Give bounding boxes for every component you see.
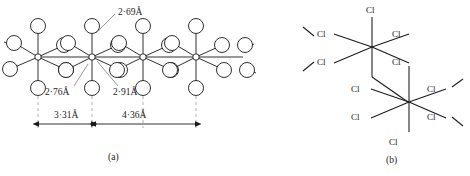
atom-label-cl-lower-lower-right: Cl bbox=[427, 113, 436, 122]
atom-label-cl-lower-bottom: Cl bbox=[389, 138, 398, 147]
ligand-circle bbox=[217, 63, 232, 78]
lower-octahedron-bonds bbox=[371, 79, 463, 132]
ligand-circle bbox=[189, 81, 204, 96]
atom-label-cl-upper-upper-right: Cl bbox=[392, 30, 401, 39]
ligand-circle bbox=[136, 81, 151, 96]
atom-label-cl-upper-upper-left: Cl bbox=[317, 30, 326, 39]
panel-b-schematic bbox=[303, 17, 463, 132]
ligand-circle bbox=[7, 36, 22, 51]
shared-edge-bonds bbox=[372, 66, 409, 102]
ligand-circle bbox=[163, 63, 178, 78]
ligand-circle bbox=[110, 63, 125, 78]
atom-label-cl-bridging-upper: Cl bbox=[392, 58, 401, 67]
ligand-circle bbox=[112, 36, 127, 51]
figure-container: 2·69Å 2·76Å 2·91Å 3·31Å 4·36Å Cl Cl Cl C… bbox=[0, 0, 470, 176]
ligand-circle bbox=[31, 81, 46, 96]
distance-label-2-76: 2·76Å bbox=[45, 88, 69, 98]
ligand-circle bbox=[238, 38, 253, 53]
upper-octahedron-bonds bbox=[303, 17, 409, 77]
ligand-circle bbox=[85, 81, 100, 96]
panel-caption-b: (b) bbox=[386, 155, 397, 165]
atom-label-cl-bridging-lower: Cl bbox=[351, 85, 360, 94]
distance-label-4-36: 4·36Å bbox=[122, 111, 146, 121]
distance-label-3-31: 3·31Å bbox=[54, 111, 78, 121]
metal-center bbox=[193, 54, 199, 60]
distance-label-2-91: 2·91Å bbox=[113, 88, 137, 98]
ligand-circle bbox=[240, 63, 255, 78]
atom-label-cl-lower-upper-right: Cl bbox=[427, 85, 436, 94]
ligand-circle bbox=[3, 62, 18, 77]
figure-drawing bbox=[0, 0, 470, 176]
ligand-circle bbox=[59, 63, 74, 78]
ligand-circle bbox=[136, 19, 151, 34]
ligand-circle bbox=[189, 19, 204, 34]
atom-label-cl-upper-top: Cl bbox=[366, 6, 375, 15]
leader-276 bbox=[74, 64, 88, 86]
distance-label-2-69: 2·69Å bbox=[118, 8, 142, 18]
ligand-circle bbox=[165, 36, 180, 51]
panel-caption-a: (a) bbox=[108, 152, 119, 162]
atom-label-cl-lower-lower-left: Cl bbox=[351, 113, 360, 122]
metal-center bbox=[35, 54, 41, 60]
ligand-circle bbox=[31, 19, 46, 34]
ligand-circle bbox=[61, 36, 76, 51]
atom-label-cl-upper-lower-left: Cl bbox=[317, 58, 326, 67]
ligand-circle bbox=[215, 38, 230, 53]
ligand-circle bbox=[85, 19, 100, 34]
metal-center bbox=[140, 54, 146, 60]
metal-center bbox=[89, 54, 95, 60]
